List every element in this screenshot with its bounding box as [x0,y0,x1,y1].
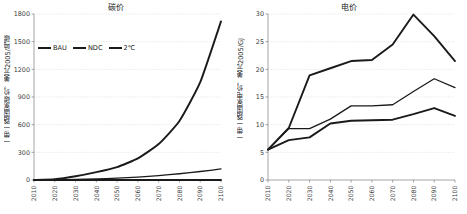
legend-item-ndc: NDC [73,44,103,52]
svg-carbon-price: 0300600900120015001800201020202030204020… [0,0,233,214]
x-tick-label: 2100 [217,185,224,201]
x-tick-label: 2050 [113,185,120,201]
x-tick-label: 2040 [327,185,334,201]
legend-item-2c: 2℃ [109,44,136,52]
x-tick-label: 2080 [176,185,183,201]
y-tick-label: 300 [18,149,30,157]
x-tick-label: 2030 [306,185,313,201]
y-tick-label: 15 [256,93,264,101]
x-tick-label: 2090 [430,185,437,201]
y-tick-label: 25 [256,38,264,46]
x-tick-label: 2070 [389,185,396,201]
x-tick-label: 2080 [410,185,417,201]
y-tick-label: 1200 [14,66,30,74]
figure-two-panel-line-charts: 碳价 一带一路国家碳价，美元2005/吨碳 030060090012001500… [0,0,467,214]
series-line-2c [268,15,455,150]
legend-label-bau: BAU [53,44,67,52]
legend-swatch-2c-icon [109,47,122,49]
svg-electricity-price: 0510152025302010202020302040205020602070… [233,0,466,214]
x-tick-label: 2020 [285,185,292,201]
x-tick-label: 2100 [451,185,458,201]
legend-label-ndc: NDC [88,44,103,52]
plot-area-carbon-price: 0300600900120015001800201020202030204020… [0,0,233,214]
y-tick-label: 600 [18,121,30,129]
x-tick-label: 2090 [196,185,203,201]
x-tick-label: 2030 [72,185,79,201]
y-tick-label: 20 [256,66,264,74]
plot-area-electricity-price: 0510152025302010202020302040205020602070… [233,0,466,214]
x-tick-label: 2010 [264,185,271,201]
y-tick-label: 5 [260,149,264,157]
panel-carbon-price: 碳价 一带一路国家碳价，美元2005/吨碳 030060090012001500… [0,0,233,214]
x-tick-label: 2060 [368,185,375,201]
legend-carbon-price: BAU NDC 2℃ [38,44,135,52]
y-tick-label: 900 [18,93,30,101]
x-tick-label: 2010 [30,185,37,201]
x-tick-label: 2060 [134,185,141,201]
y-tick-label: 1500 [14,38,30,46]
y-tick-label: 0 [260,176,264,184]
legend-swatch-ndc-icon [73,47,86,48]
x-tick-label: 2040 [93,185,100,201]
y-tick-label: 0 [26,176,30,184]
legend-label-2c: 2℃ [124,44,136,52]
x-tick-label: 2050 [347,185,354,201]
y-tick-label: 10 [256,121,264,129]
legend-swatch-bau-icon [38,47,51,49]
panel-electricity-price: 电价 一带一路国家电价，美元2005/GJ 051015202530201020… [233,0,466,214]
y-tick-label: 30 [256,10,264,18]
x-tick-label: 2020 [51,185,58,201]
y-tick-label: 1800 [14,10,30,18]
x-tick-label: 2070 [155,185,162,201]
legend-item-bau: BAU [38,44,67,52]
